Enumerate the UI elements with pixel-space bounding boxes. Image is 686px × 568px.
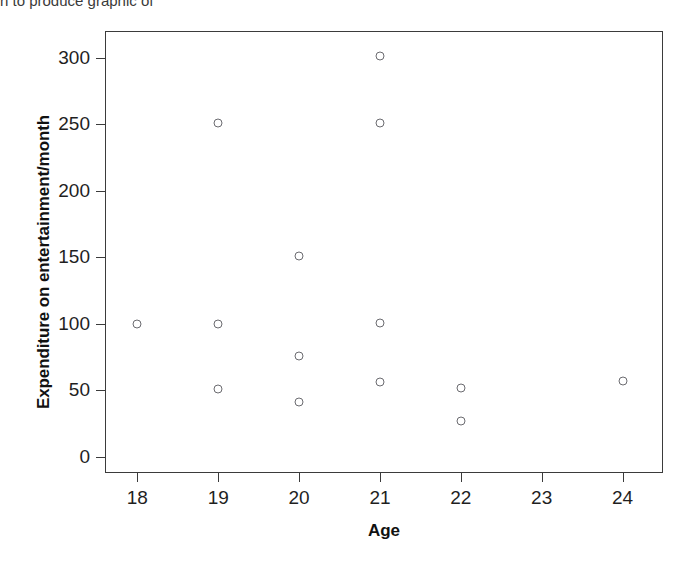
x-tick-mark [218,473,219,482]
x-tick-label: 21 [357,487,403,509]
x-tick-label: 24 [600,487,646,509]
data-point [295,398,304,407]
data-point [375,118,384,127]
x-tick-mark [623,473,624,482]
data-point [214,385,223,394]
y-tick-label: 300 [44,47,90,69]
scatter-plot-figure: 050100150200250300 18192021222324 Expend… [0,0,686,568]
data-point [456,417,465,426]
x-tick-mark [299,473,300,482]
plot-area-frame [105,31,663,473]
data-point [214,118,223,127]
x-tick-label: 20 [276,487,322,509]
y-tick-mark [96,191,105,192]
x-tick-mark [461,473,462,482]
y-tick-mark [96,257,105,258]
bottom-text-fragment [4,560,304,568]
x-tick-mark [137,473,138,482]
y-tick-mark [96,457,105,458]
data-point [295,351,304,360]
data-point [295,251,304,260]
x-tick-label: 23 [519,487,565,509]
data-point [456,383,465,392]
x-tick-mark [542,473,543,482]
x-axis-title: Age [105,521,663,541]
y-tick-mark [96,58,105,59]
data-point [375,378,384,387]
y-axis-title: Expenditure on entertainment/month [34,72,54,452]
y-tick-mark [96,324,105,325]
x-tick-label: 19 [195,487,241,509]
y-tick-mark [96,390,105,391]
x-tick-mark [380,473,381,482]
x-tick-label: 22 [438,487,484,509]
data-point [375,52,384,61]
x-tick-label: 18 [114,487,160,509]
data-point [375,318,384,327]
data-point [618,377,627,386]
y-tick-mark [96,124,105,125]
data-point [214,319,223,328]
data-point [133,319,142,328]
